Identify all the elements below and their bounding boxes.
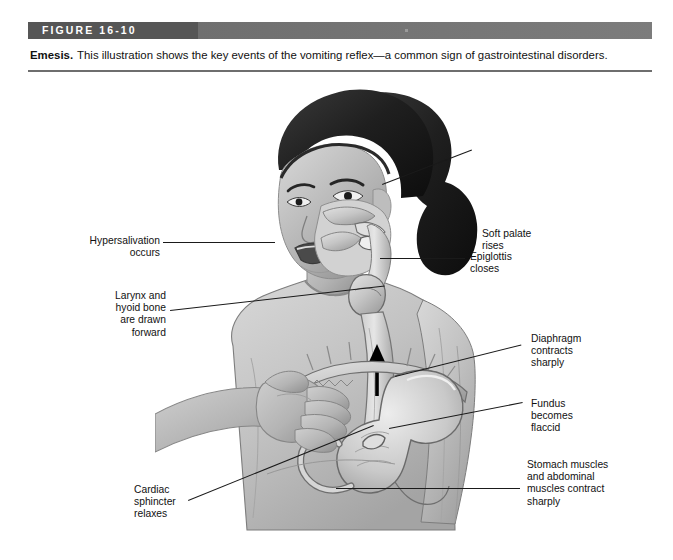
figure-number-label: FIGURE 16-10 (42, 24, 137, 36)
figure-illustration-area: Soft palate rises Hypersalivation occurs… (0, 78, 673, 560)
leader-stomach-muscles (336, 488, 520, 489)
pupil-right (344, 192, 352, 200)
callout-diaphragm: Diaphragm contracts sharply (531, 333, 581, 370)
callout-cardiac-sphincter: Cardiac sphincter relaxes (134, 484, 176, 521)
callout-epiglottis: Epiglottis closes (470, 251, 512, 275)
callout-hypersalivation: Hypersalivation occurs (28, 235, 160, 259)
leader-epiglottis (380, 258, 465, 259)
callout-soft-palate: Soft palate rises (482, 228, 531, 252)
pupil-left (296, 199, 303, 206)
caption-divider-rule (28, 70, 652, 72)
emesis-illustration (155, 78, 515, 538)
header-bar-speck (405, 29, 408, 32)
caption-body-text: This illustration shows the key events o… (77, 49, 608, 61)
callout-larynx-hyoid: Larynx and hyoid bone are drawn forward (20, 290, 166, 339)
callout-fundus: Fundus becomes flaccid (531, 398, 573, 435)
figure-header-bar: FIGURE 16-10 (28, 22, 652, 39)
callout-stomach-muscles: Stomach muscles and abdominal muscles co… (527, 459, 608, 508)
larynx-hyoid (349, 275, 386, 316)
leader-hypersalivation (163, 242, 275, 243)
figure-caption: Emesis.This illustration shows the key e… (30, 48, 652, 63)
caption-lead-term: Emesis. (30, 49, 73, 61)
